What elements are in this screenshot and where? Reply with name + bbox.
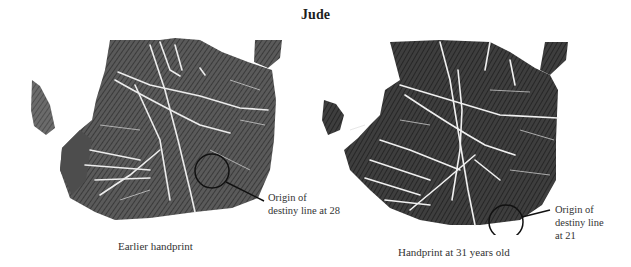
right-caption: Handprint at 31 years old xyxy=(398,246,510,258)
annotation-right-line1: Origin of xyxy=(555,203,604,216)
palm-print-left xyxy=(0,30,300,230)
left-handprint-image xyxy=(0,30,300,230)
left-caption: Earlier handprint xyxy=(118,240,193,252)
palm-print-right xyxy=(310,30,570,235)
annotation-right-line3: at 21 xyxy=(555,229,604,242)
right-handprint-image xyxy=(310,30,570,235)
annotation-right-line2: destiny line xyxy=(555,216,604,229)
page-title: Jude xyxy=(0,7,631,23)
annotation-right: Origin of destiny line at 21 xyxy=(555,203,604,242)
